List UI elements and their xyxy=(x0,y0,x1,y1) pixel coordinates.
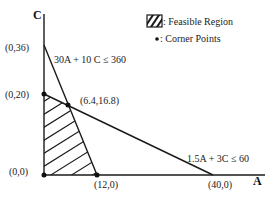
legend-dot-icon xyxy=(155,37,159,41)
label-12-0: (12,0) xyxy=(94,179,118,191)
legend-label-feasible: : Feasible Region xyxy=(163,16,233,27)
constraint-label-2: 1.5A + 3C ≤ 60 xyxy=(187,153,249,164)
label-0-20: (0,20) xyxy=(5,89,29,101)
label-40-0: (40,0) xyxy=(208,179,232,191)
axis-label-c: C xyxy=(33,8,42,22)
corner-point-6-4-16-8 xyxy=(66,103,71,108)
label-0-0: (0,0) xyxy=(9,166,28,178)
legend: : Feasible Region : Corner Points xyxy=(143,12,233,44)
corner-point-0-0 xyxy=(42,173,47,178)
label-6-4-16-8: (6.4,16.8) xyxy=(80,95,119,107)
lp-diagram: C A (0,36) (0,20) (0,0) (6.4,16.8) (12,0… xyxy=(0,0,276,199)
axis-label-a: A xyxy=(253,174,262,188)
legend-label-corner: : Corner Points xyxy=(160,33,221,44)
constraint-label-1: 30A + 10 C ≤ 360 xyxy=(54,54,126,65)
corner-point-12-0 xyxy=(95,173,100,178)
label-0-36: (0,36) xyxy=(5,42,29,54)
corner-point-0-20 xyxy=(42,92,47,97)
